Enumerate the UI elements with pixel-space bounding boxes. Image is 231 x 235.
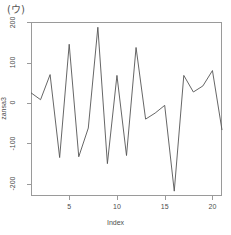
series-polyline: [31, 27, 222, 191]
y-tick-label: 100: [9, 51, 16, 75]
x-tick-label: 20: [202, 203, 222, 210]
x-tick-label: 10: [107, 203, 127, 210]
y-axis-title: zansa3: [0, 89, 7, 129]
y-tick-label: -200: [9, 172, 16, 196]
y-tick-mark: [27, 184, 31, 185]
y-tick-label: 200: [9, 10, 16, 34]
plot-area: [31, 22, 222, 196]
x-tick-label: 15: [155, 203, 175, 210]
chart-figure: (ウ) zansa3 2001000-100-2005101520 Index: [0, 0, 231, 235]
x-tick-mark: [212, 196, 213, 200]
y-tick-label: 0: [9, 91, 16, 115]
x-tick-label: 5: [59, 203, 79, 210]
x-axis-title: Index: [0, 219, 231, 227]
data-series-line: [31, 22, 222, 196]
x-tick-mark: [69, 196, 70, 200]
y-tick-mark: [27, 103, 31, 104]
y-tick-label: -100: [9, 131, 16, 155]
x-tick-mark: [165, 196, 166, 200]
y-tick-mark: [27, 143, 31, 144]
y-tick-mark: [27, 63, 31, 64]
y-tick-mark: [27, 22, 31, 23]
x-tick-mark: [117, 196, 118, 200]
